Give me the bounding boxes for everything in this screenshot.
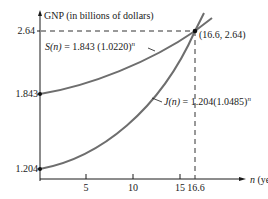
x-tick-label-16.6: 16.6 <box>187 182 205 193</box>
y-tick-label-1.843: 1.843 <box>16 88 39 99</box>
chart: GNP (in billions of dollars) 2.64 1.843 … <box>0 0 268 199</box>
s-curve-label: S(n) = 1.843 (1.0220)n <box>45 40 135 53</box>
s-intercept-dot <box>38 92 42 96</box>
y-axis-title: GNP (in billions of dollars) <box>44 10 154 22</box>
x-tick-label-10: 10 <box>128 182 138 193</box>
intersection-dot <box>193 29 198 34</box>
s-leader-line <box>148 48 155 51</box>
x-axis-arrow-icon <box>239 177 246 181</box>
x-axis-title: n (years) <box>250 174 268 186</box>
y-tick-label-1.204: 1.204 <box>16 163 39 174</box>
j-intercept-dot <box>38 167 42 171</box>
j-curve-label: J(n) = 1.204(1.0485)n <box>164 95 251 108</box>
x-tick-label-15: 15 <box>175 182 185 193</box>
s-curve <box>40 18 212 94</box>
y-axis-arrow-icon <box>38 10 42 16</box>
intersection-label: (16.6, 2.64) <box>199 29 246 41</box>
x-tick-label-5: 5 <box>84 182 89 193</box>
y-tick-label-2.64: 2.64 <box>18 25 36 36</box>
j-curve <box>40 13 204 169</box>
